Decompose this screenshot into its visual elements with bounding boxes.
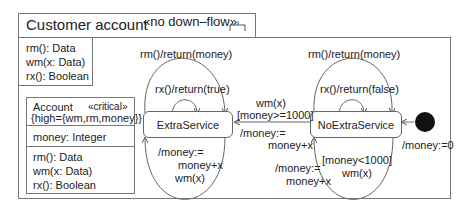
transition-label: money+x bbox=[178, 159, 223, 172]
initial-state[interactable] bbox=[415, 112, 435, 132]
state-label: NoExtraService bbox=[318, 119, 394, 131]
transition-label: [money<1000] bbox=[322, 154, 392, 167]
state-label: ExtraService bbox=[157, 119, 219, 131]
transition-label: /money:=0 bbox=[402, 139, 454, 152]
state-no-extra-service[interactable]: NoExtraService bbox=[310, 111, 402, 138]
transition-label: /money:= bbox=[275, 162, 321, 175]
transition-label: rx()/return(true) bbox=[155, 83, 230, 96]
transition-label: [money>=1000] bbox=[237, 109, 313, 122]
state-transitions bbox=[0, 0, 469, 210]
transition-label: /money:= bbox=[158, 146, 204, 159]
transition-label: wm(x) bbox=[342, 167, 372, 180]
transition-label: wm(x) bbox=[175, 172, 205, 185]
transition-label: rm()/return(money) bbox=[308, 48, 400, 61]
state-extra-service[interactable]: ExtraService bbox=[143, 111, 233, 138]
transition-label: money+x bbox=[286, 175, 331, 188]
transition-label: rx()/return(false) bbox=[320, 83, 399, 96]
transition-label: rm()/return(money) bbox=[140, 48, 232, 61]
transition-label: money+x bbox=[268, 139, 313, 152]
